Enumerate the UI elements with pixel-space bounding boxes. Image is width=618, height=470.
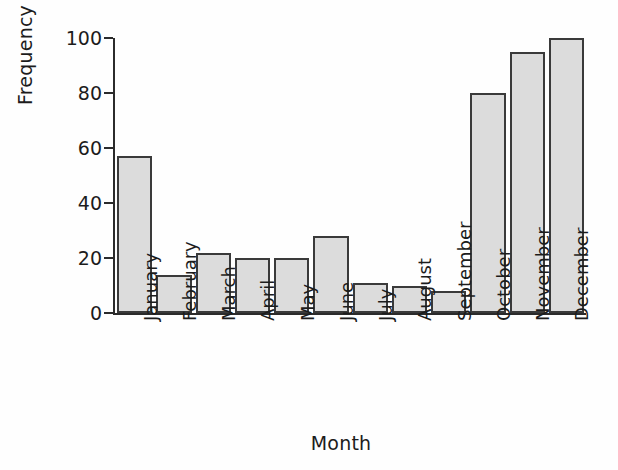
x-axis-tick-label: February [181, 241, 199, 321]
x-axis-tick-label: March [220, 266, 238, 321]
bar-slot [274, 38, 309, 313]
bar-chart-figure: Frequency 020406080100 JanuaryFebruaryMa… [0, 0, 618, 470]
x-axis-tick-label: January [142, 253, 160, 321]
y-axis-tick-mark [104, 257, 113, 259]
y-axis-tick-label: 80 [50, 84, 102, 103]
y-axis-tick-label: 60 [50, 139, 102, 158]
y-axis-tick-label: 0 [50, 304, 102, 323]
x-axis-tick-label: December [573, 228, 591, 321]
y-axis-tick-mark [104, 147, 113, 149]
y-axis-tick-label: 40 [50, 194, 102, 213]
bar-slot [235, 38, 270, 313]
x-axis-title: Month [0, 432, 618, 454]
y-axis-tick-labels: 020406080100 [50, 0, 102, 470]
x-axis-tick-label: August [416, 258, 434, 321]
y-axis-tick-mark [104, 37, 113, 39]
x-axis-tick-label: October [495, 249, 513, 321]
x-axis-tick-label: November [534, 227, 552, 321]
y-axis-tick-label: 20 [50, 249, 102, 268]
y-axis-tick-mark [104, 92, 113, 94]
bar-slot [313, 38, 348, 313]
x-axis-tick-label: July [377, 289, 395, 321]
bar-slot [353, 38, 388, 313]
y-axis-title: Frequency [14, 0, 44, 130]
x-axis-tick-label: April [259, 280, 277, 321]
y-axis-tick-label: 100 [50, 29, 102, 48]
y-axis-tick-mark [104, 202, 113, 204]
x-axis-tick-label: September [456, 222, 474, 322]
x-axis-tick-label: May [299, 284, 317, 321]
x-axis-tick-labels: JanuaryFebruaryMarchAprilMayJuneJulyAugu… [115, 313, 586, 423]
y-axis-tick-mark [104, 312, 113, 314]
x-axis-tick-label: June [338, 282, 356, 321]
